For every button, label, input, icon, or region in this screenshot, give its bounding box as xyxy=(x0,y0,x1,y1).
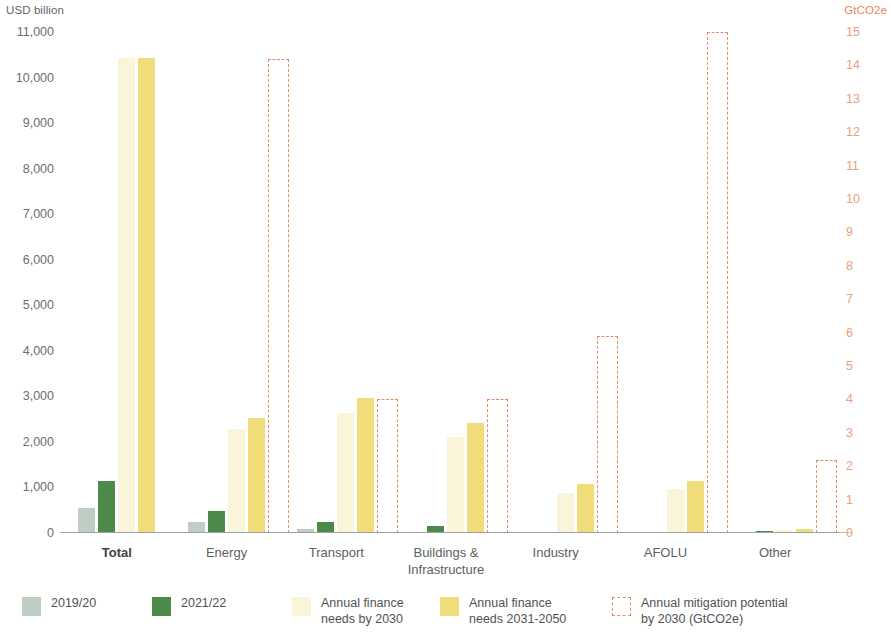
legend-swatch-icon xyxy=(612,597,631,616)
left-tick-label: 6,000 xyxy=(23,253,54,267)
bar-annual-finance-needs-2031-2050 xyxy=(248,418,265,533)
bar-group xyxy=(62,32,172,533)
bar-2021-22 xyxy=(208,511,225,533)
legend-label: Annual mitigation potential by 2030 (GtC… xyxy=(641,596,788,627)
left-tick-label: 2,000 xyxy=(23,435,54,449)
bar-group xyxy=(611,32,721,533)
right-tick-label: 9 xyxy=(846,225,853,239)
x-axis-line xyxy=(60,532,839,533)
left-tick-label: 4,000 xyxy=(23,344,54,358)
bar-group xyxy=(281,32,391,533)
bar-annual-finance-needs-2031-2050 xyxy=(357,398,374,533)
right-axis-title: GtCO2e xyxy=(844,4,887,16)
left-tick-label: 8,000 xyxy=(23,162,54,176)
right-tick-label: 10 xyxy=(846,192,860,206)
legend-label: 2021/22 xyxy=(181,596,226,612)
right-tick-label: 11 xyxy=(846,159,859,173)
left-tick-label: 1,000 xyxy=(23,480,54,494)
left-tick-label: 3,000 xyxy=(23,389,54,403)
right-tick-label: 4 xyxy=(846,392,853,406)
right-tick-label: 13 xyxy=(846,92,860,106)
legend-item-needs-2031-2050[interactable]: Annual finance needs 2031-2050 xyxy=(440,596,566,627)
bar-annual-finance-needs-by-2030 xyxy=(228,429,245,533)
bar-annual-finance-needs-2031-2050 xyxy=(687,481,704,533)
right-tick-label: 8 xyxy=(846,259,853,273)
left-tick-label: 11,000 xyxy=(17,25,54,39)
legend-swatch-icon xyxy=(292,597,311,616)
right-axis-ticks: 1514131211109876543210 xyxy=(846,32,888,533)
legend-swatch-icon xyxy=(152,597,171,616)
right-tick-label: 3 xyxy=(846,426,853,440)
left-tick-label: 7,000 xyxy=(23,207,54,221)
left-tick-label: 9,000 xyxy=(23,116,54,130)
bar-annual-finance-needs-2031-2050 xyxy=(467,423,484,533)
category-label: Buildings & Infrastructure xyxy=(391,544,501,578)
left-axis-title: USD billion xyxy=(6,4,64,16)
bar-annual-finance-needs-by-2030 xyxy=(557,493,574,533)
right-tick-label: 12 xyxy=(846,125,860,139)
bar-annual-mitigation-potential-by-2030-gtco2e xyxy=(816,460,837,533)
right-tick-label: 14 xyxy=(846,58,860,72)
legend-item-mitigation-2030[interactable]: Annual mitigation potential by 2030 (GtC… xyxy=(612,596,788,627)
bar-2021-22 xyxy=(98,481,115,533)
legend-item-2019-20[interactable]: 2019/20 xyxy=(22,596,96,616)
legend-label: 2019/20 xyxy=(51,596,96,612)
legend-swatch-icon xyxy=(440,597,459,616)
legend-item-needs-2030[interactable]: Annual finance needs by 2030 xyxy=(292,596,404,627)
bar-annual-finance-needs-by-2030 xyxy=(447,437,464,533)
right-tick-label: 15 xyxy=(846,25,860,39)
bar-group xyxy=(391,32,501,533)
right-tick-label: 5 xyxy=(846,359,853,373)
legend-swatch-icon xyxy=(22,597,41,616)
left-axis-ticks: 11,00010,0009,0008,0007,0006,0005,0004,0… xyxy=(0,32,54,533)
plot-area xyxy=(62,32,830,533)
legend-label: Annual finance needs 2031-2050 xyxy=(469,596,566,627)
left-tick-label: 10,000 xyxy=(16,71,54,85)
legend-label: Annual finance needs by 2030 xyxy=(321,596,404,627)
bar-annual-finance-needs-2031-2050 xyxy=(138,58,155,533)
right-tick-label: 6 xyxy=(846,326,853,340)
bar-group xyxy=(501,32,611,533)
right-tick-label: 2 xyxy=(846,459,853,473)
right-tick-label: 7 xyxy=(846,292,853,306)
left-tick-label: 5,000 xyxy=(23,298,54,312)
x-axis-line-extension xyxy=(839,532,851,533)
right-tick-label: 1 xyxy=(846,493,853,507)
category-label: Total xyxy=(62,544,172,561)
bar-group xyxy=(172,32,282,533)
left-tick-label: 0 xyxy=(47,526,54,540)
category-label: AFOLU xyxy=(611,544,721,561)
category-label: Energy xyxy=(172,544,282,561)
category-label: Transport xyxy=(281,544,391,561)
bar-group xyxy=(720,32,830,533)
category-label: Other xyxy=(720,544,830,561)
bar-annual-finance-needs-2031-2050 xyxy=(577,484,594,533)
bar-annual-finance-needs-by-2030 xyxy=(337,413,354,533)
legend-item-2021-22[interactable]: 2021/22 xyxy=(152,596,226,616)
bar-2019-20 xyxy=(78,508,95,534)
chart-legend: 2019/202021/22Annual finance needs by 20… xyxy=(0,588,891,634)
bar-annual-finance-needs-by-2030 xyxy=(118,58,135,533)
chart-container: USD billion GtCO2e 11,00010,0009,0008,00… xyxy=(0,0,891,634)
category-label: Industry xyxy=(501,544,611,561)
bar-annual-finance-needs-by-2030 xyxy=(667,489,684,533)
